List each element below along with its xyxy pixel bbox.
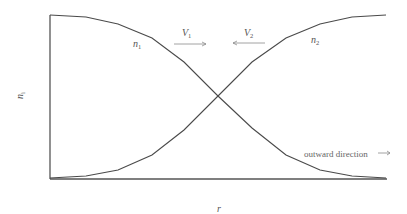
diagram-canvas: ni r n1 n2 V1 V2 outward direction bbox=[0, 0, 407, 214]
velocity-v1-label: V1 bbox=[182, 27, 191, 39]
curve-n2-label: n2 bbox=[311, 34, 319, 46]
outward-direction-label: outward direction bbox=[304, 149, 368, 159]
arrow-right-icon bbox=[174, 42, 206, 46]
velocity-v2-label: V2 bbox=[244, 27, 253, 39]
y-axis-label: ni bbox=[14, 92, 26, 99]
arrow-left-icon bbox=[233, 41, 265, 45]
x-axis-label: r bbox=[217, 203, 221, 214]
arrow-right-icon bbox=[378, 151, 390, 155]
curve-n1-label: n1 bbox=[133, 38, 141, 50]
